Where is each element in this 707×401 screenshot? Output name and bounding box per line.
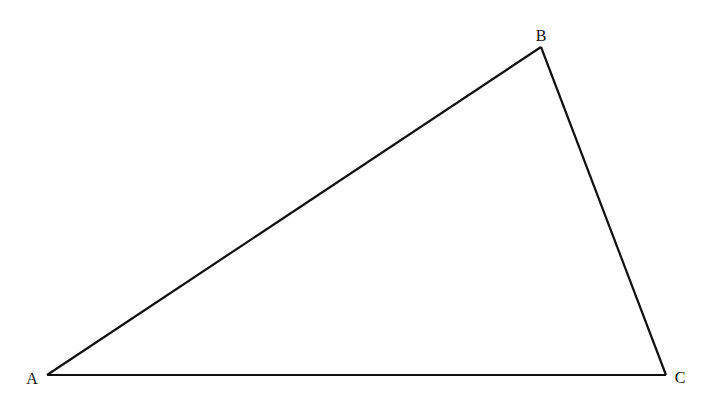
edge-ab xyxy=(47,47,541,375)
vertex-label-a: A xyxy=(26,370,38,387)
vertex-label-c: C xyxy=(675,369,686,386)
triangle-edges xyxy=(47,47,666,375)
edge-bc xyxy=(541,47,666,375)
vertex-label-b: B xyxy=(536,27,547,44)
triangle-diagram: A B C xyxy=(0,0,707,401)
vertex-labels: A B C xyxy=(26,27,685,387)
